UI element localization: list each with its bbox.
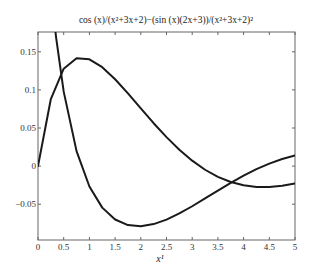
x-tick-label: 4.5 [264, 242, 276, 252]
y-tick-label: 0.1 [25, 85, 36, 95]
x-tick-label: 1 [87, 242, 92, 252]
y-tick-label: 0.05 [20, 123, 36, 133]
y-tick-label: −0.05 [15, 199, 36, 209]
x-tick-label: 0.5 [58, 242, 70, 252]
x-axis-label: x¹ [155, 253, 163, 264]
x-tick-label: 5 [293, 242, 298, 252]
x-tick-label: 3 [190, 242, 195, 252]
chart-title: cos (x)/(x²+3x+2)−(sin (x)(2x+3))/(x²+3x… [79, 15, 253, 26]
chart: cos (x)/(x²+3x+2)−(sin (x)(2x+3))/(x²+3x… [0, 0, 313, 273]
y-axis: −0.0500.050.10.15 [15, 47, 295, 209]
x-tick-label: 2.5 [161, 242, 173, 252]
x-tick-label: 1.5 [109, 242, 121, 252]
x-tick-label: 3.5 [212, 242, 224, 252]
series-f-line [38, 58, 295, 187]
x-tick-label: 0 [36, 242, 41, 252]
x-tick-label: 2 [139, 242, 144, 252]
y-tick-label: 0.15 [20, 47, 36, 57]
x-tick-label: 4 [241, 242, 246, 252]
y-tick-label: 0 [32, 161, 37, 171]
